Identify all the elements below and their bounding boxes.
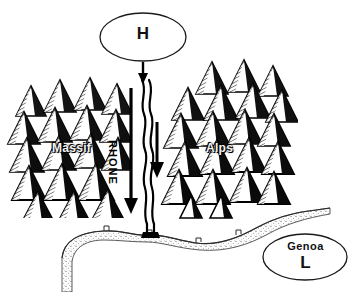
rhone-river-label: RHONE (107, 140, 119, 185)
arrow-high-to-valley (138, 62, 148, 84)
alps-label: Alps (206, 141, 233, 155)
diagram-canvas: H Genoa L Massif Alps RHONE (0, 0, 348, 292)
high-pressure-label: H (100, 24, 186, 44)
terrain-alps (162, 60, 298, 218)
low-pressure-label: L (263, 253, 348, 273)
massif-label: Massif (52, 141, 91, 155)
genoa-label: Genoa (263, 240, 348, 252)
